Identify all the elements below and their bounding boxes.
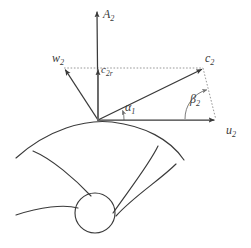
label-axis-vertical: A2 xyxy=(103,8,114,24)
label-absolute-velocity-sub: 2 xyxy=(210,58,214,67)
label-absolute-velocity: c2 xyxy=(205,52,214,68)
impeller-hub-circle xyxy=(75,193,115,233)
label-radial-component-sub: 2r xyxy=(106,69,113,78)
impeller-blade-left xyxy=(33,151,91,196)
impeller-blade-right xyxy=(116,164,176,216)
label-angle-beta: β2 xyxy=(190,93,200,109)
label-angle-beta-sub: 2 xyxy=(196,99,200,108)
impeller-blade-left-lower xyxy=(16,206,78,215)
label-angle-alpha: α1 xyxy=(125,101,135,117)
angle-arc-alpha1 xyxy=(123,110,124,120)
dotted-line-c2-to-u2 xyxy=(203,68,216,118)
label-angle-alpha-sub: 1 xyxy=(131,107,135,116)
vector-w2 xyxy=(66,70,99,120)
label-radial-component: c2r xyxy=(101,64,113,78)
label-relative-velocity: w2 xyxy=(52,52,64,68)
label-blade-velocity-sub: 2 xyxy=(232,130,236,139)
label-relative-velocity-base: w xyxy=(52,51,60,65)
impeller-outer-arc xyxy=(16,121,184,160)
diagram-canvas xyxy=(0,0,251,248)
label-axis-vertical-sub: 2 xyxy=(110,14,114,23)
impeller-group xyxy=(16,121,184,233)
velocity-triangle-figure: A2 w2 c2r c2 u2 α1 β2 xyxy=(0,0,251,248)
label-blade-velocity: u2 xyxy=(226,124,236,140)
impeller-blade-right-tail xyxy=(113,146,158,213)
label-relative-velocity-sub: 2 xyxy=(60,58,64,67)
